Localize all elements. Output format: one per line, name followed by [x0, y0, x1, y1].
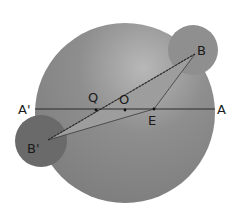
- label-a-prime: A': [18, 102, 30, 117]
- label-q: Q: [88, 90, 98, 105]
- label-e: E: [148, 113, 156, 128]
- circle-b-prime: [15, 115, 67, 167]
- label-b-prime: B': [27, 141, 40, 156]
- point-o: [124, 109, 127, 112]
- label-o: O: [119, 92, 129, 107]
- geometry-diagram: A' A Q O E B B': [0, 0, 240, 217]
- label-a: A: [217, 102, 226, 117]
- point-e: [153, 108, 156, 111]
- label-b: B: [197, 43, 206, 58]
- point-q: [95, 109, 98, 112]
